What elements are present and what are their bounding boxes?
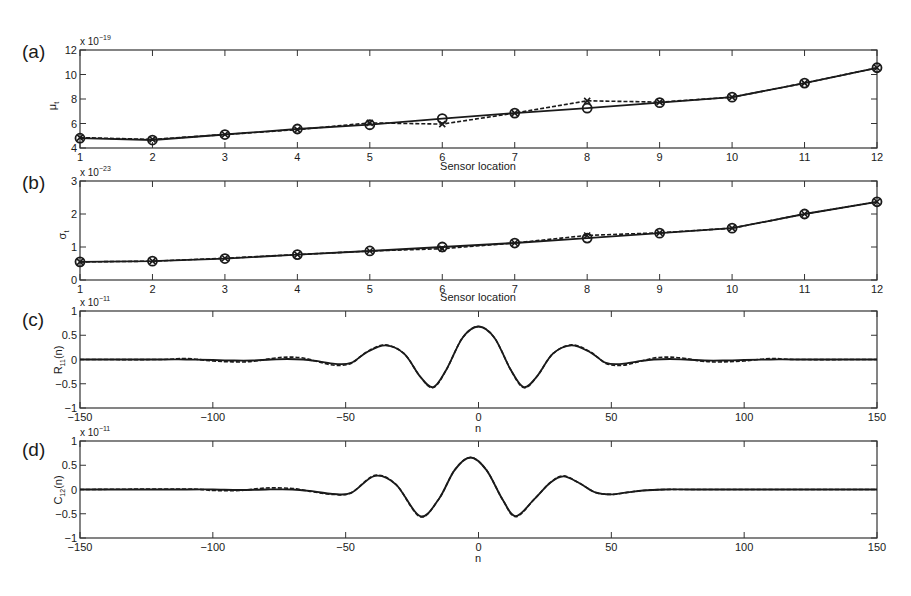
x-tick-label: 10: [726, 151, 738, 163]
x-tick-label: 5: [367, 283, 373, 295]
x-tick-label: 3: [222, 283, 228, 295]
series-dashed: [80, 458, 877, 518]
y-tick-label: 6: [71, 118, 77, 130]
y-multiplier: x 10−19: [80, 34, 111, 47]
y-axis-label: R11(n): [52, 346, 66, 375]
plot-area: −150−100−50050100150−1−0.500.51: [55, 305, 886, 423]
x-tick-label: 0: [475, 411, 481, 423]
panel-label: (c): [22, 309, 44, 330]
x-axis-label: n: [475, 422, 481, 434]
x-tick-label: 50: [605, 411, 617, 423]
y-tick-label: 0.5: [62, 329, 77, 341]
y-axis-label: μt: [46, 102, 60, 110]
y-tick-label: 3: [71, 175, 77, 187]
x-tick-label: −50: [336, 411, 355, 423]
y-axis-label: σt: [56, 231, 70, 240]
y-tick-label: 0: [71, 274, 77, 286]
series-solid-circle: [80, 202, 877, 262]
panel-a: (a) x 10−19 μt Sensor location 123456789…: [22, 34, 883, 172]
y-tick-label: 1: [71, 435, 77, 447]
panel-label: (a): [22, 41, 45, 62]
panel-label: (b): [22, 172, 45, 193]
y-tick-label: 2: [71, 208, 77, 220]
panel-b: (b) x 10−23 σt Sensor location 123456789…: [22, 165, 883, 303]
series-dashed-cross: [80, 68, 877, 140]
x-tick-label: 150: [868, 411, 886, 423]
x-tick-label: 1: [77, 283, 83, 295]
x-tick-label: 11: [799, 151, 810, 163]
x-tick-label: 2: [149, 151, 155, 163]
y-tick-label: −0.5: [55, 508, 77, 520]
x-tick-label: −50: [336, 541, 355, 553]
series-solid: [80, 458, 877, 517]
y-tick-label: 0: [71, 484, 77, 496]
x-tick-label: 8: [584, 151, 590, 163]
x-tick-label: 100: [735, 411, 753, 423]
panel-label: (d): [22, 439, 45, 460]
x-tick-label: 1: [77, 151, 83, 163]
figure-canvas: (a) x 10−19 μt Sensor location 123456789…: [0, 0, 911, 596]
x-axis-label: Sensor location: [440, 291, 516, 303]
series-solid: [80, 327, 877, 388]
x-axis-label: n: [475, 552, 481, 564]
panel-c: (c) x 10−11 R11(n) n −150−100−5005010015…: [22, 295, 886, 434]
x-tick-label: 9: [657, 151, 663, 163]
x-tick-label: 5: [367, 151, 373, 163]
x-tick-label: 100: [735, 541, 753, 553]
y-tick-label: 8: [71, 93, 77, 105]
y-multiplier: x 10−11: [80, 295, 110, 308]
y-tick-label: −1: [64, 532, 77, 544]
y-tick-label: 10: [65, 69, 77, 81]
x-tick-label: 11: [799, 283, 810, 295]
x-tick-label: 4: [294, 151, 300, 163]
x-tick-label: 6: [439, 283, 445, 295]
x-tick-label: 9: [657, 283, 663, 295]
y-multiplier: x 10−11: [80, 425, 110, 438]
series-solid-circle: [80, 68, 877, 140]
x-axis-label: Sensor location: [440, 160, 516, 172]
plot-area: −150−100−50050100150−1−0.500.51: [55, 435, 886, 553]
plot-area: 1234567891011124681012: [65, 44, 883, 163]
y-tick-label: 1: [71, 241, 77, 253]
y-tick-label: −1: [64, 402, 77, 414]
axes-box: [80, 50, 877, 148]
x-tick-label: 10: [726, 283, 738, 295]
y-tick-label: 12: [65, 44, 77, 56]
plot-area: 1234567891011120123: [71, 175, 883, 295]
x-tick-label: 8: [584, 283, 590, 295]
x-tick-label: 7: [512, 283, 518, 295]
x-tick-label: 7: [512, 151, 518, 163]
y-tick-label: 0: [71, 354, 77, 366]
x-tick-label: 12: [871, 283, 883, 295]
axes-box: [80, 181, 877, 280]
x-tick-label: 3: [222, 151, 228, 163]
y-tick-label: −0.5: [55, 378, 77, 390]
y-multiplier: x 10−23: [80, 165, 111, 178]
y-axis-label: C12(n): [52, 475, 66, 504]
x-tick-label: 12: [871, 151, 883, 163]
x-tick-label: 6: [439, 151, 445, 163]
x-tick-label: −100: [200, 541, 225, 553]
x-tick-label: 150: [868, 541, 886, 553]
x-tick-label: −100: [200, 411, 225, 423]
y-tick-label: 0.5: [62, 459, 77, 471]
panel-d: (d) x 10−11 C12(n) n −150−100−5005010015…: [22, 425, 886, 564]
series-dashed: [80, 327, 877, 388]
series-dashed-cross: [80, 202, 877, 262]
x-tick-label: 50: [605, 541, 617, 553]
x-tick-label: 4: [294, 283, 300, 295]
x-tick-label: 0: [475, 541, 481, 553]
x-tick-label: 2: [149, 283, 155, 295]
y-tick-label: 1: [71, 305, 77, 317]
y-tick-label: 4: [71, 142, 77, 154]
figure: (a) x 10−19 μt Sensor location 123456789…: [0, 0, 911, 596]
